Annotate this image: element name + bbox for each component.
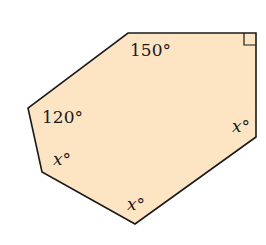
angle-label-top: 150° — [130, 40, 171, 60]
hexagon-diagram: 150° 120° x° x° x° — [0, 0, 266, 245]
angle-label-left: 120° — [42, 107, 83, 127]
angle-label-right: x° — [232, 116, 250, 136]
angle-label-lower-left: x° — [53, 149, 71, 169]
angle-label-bottom: x° — [127, 194, 145, 214]
